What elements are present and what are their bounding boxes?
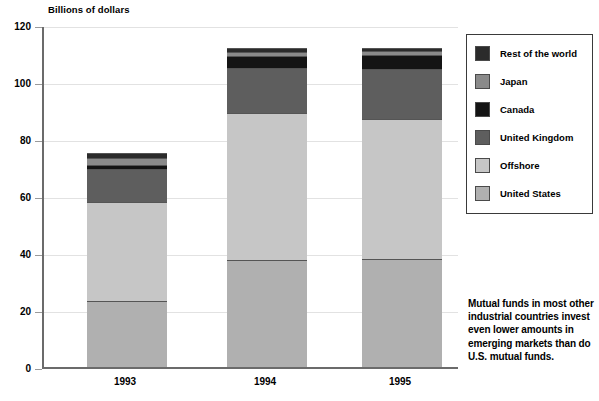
legend-item-label: Offshore (500, 161, 540, 171)
legend-item-offshore[interactable]: Offshore (475, 157, 540, 174)
y-axis-title: Billions of dollars (48, 4, 130, 15)
y-axis-tick-label: 20 (0, 306, 31, 317)
bar-1994 (227, 48, 307, 367)
bar-segment-1995-offshore (362, 119, 442, 259)
bar-segment-1993-rest-of-the-world (87, 153, 167, 157)
y-axis-tick-mark (35, 369, 42, 370)
legend-item-label: United States (500, 189, 561, 199)
bar-segment-1994-rest-of-the-world (227, 48, 307, 52)
x-axis-label-1993: 1993 (80, 376, 170, 387)
legend-swatch-icon (475, 130, 490, 145)
bar-segment-1993-japan (87, 158, 167, 165)
bar-segment-1995-united-states (362, 259, 442, 367)
y-axis-tick-mark (35, 255, 42, 256)
legend-item-label: Rest of the world (500, 49, 577, 59)
bar-segment-1994-united-kingdom (227, 68, 307, 114)
bar-segment-1995-canada (362, 55, 442, 69)
bar-segment-1995-united-kingdom (362, 69, 442, 119)
legend-swatch-icon (475, 102, 490, 117)
legend: Rest of the worldJapanCanadaUnited Kingd… (466, 34, 593, 214)
bar-segment-1995-rest-of-the-world (362, 48, 442, 51)
bar-segment-1994-offshore (227, 113, 307, 260)
gridline (44, 27, 458, 28)
bar-segment-1993-offshore (87, 202, 167, 302)
y-axis-tick-label: 80 (0, 135, 31, 146)
legend-swatch-icon (475, 186, 490, 201)
legend-item-label: Japan (500, 77, 527, 87)
y-axis-tick-label: 100 (0, 78, 31, 89)
legend-item-canada[interactable]: Canada (475, 101, 534, 118)
y-axis-tick-mark (35, 198, 42, 199)
y-axis-tick-mark (35, 84, 42, 85)
bar-segment-1993-canada (87, 165, 167, 169)
x-axis-label-1994: 1994 (220, 376, 310, 387)
legend-item-japan[interactable]: Japan (475, 73, 527, 90)
legend-item-united-kingdom[interactable]: United Kingdom (475, 129, 573, 146)
y-axis-tick-label: 120 (0, 21, 31, 32)
chart-figure: Billions of dollars 020406080100120 1993… (0, 0, 599, 401)
plot-area (42, 27, 458, 369)
legend-item-label: United Kingdom (500, 133, 573, 143)
bar-segment-1994-canada (227, 56, 307, 67)
y-axis-tick-label: 40 (0, 249, 31, 260)
bar-1993 (87, 153, 167, 367)
legend-item-rest-of-world[interactable]: Rest of the world (475, 45, 577, 62)
annotation-text: Mutual funds in most other industrial co… (468, 297, 594, 363)
legend-swatch-icon (475, 46, 490, 61)
bar-segment-1994-japan (227, 52, 307, 56)
legend-swatch-icon (475, 158, 490, 173)
bar-1995 (362, 48, 442, 367)
legend-swatch-icon (475, 74, 490, 89)
y-axis-tick-mark (35, 141, 42, 142)
y-axis-tick-mark (35, 312, 42, 313)
bar-segment-1993-united-kingdom (87, 169, 167, 202)
bar-segment-1994-united-states (227, 260, 307, 367)
legend-item-label: Canada (500, 105, 534, 115)
bar-segment-1995-japan (362, 51, 442, 55)
x-axis-label-1995: 1995 (355, 376, 445, 387)
y-axis-tick-mark (35, 27, 42, 28)
y-axis-tick-label: 0 (0, 363, 31, 374)
y-axis-tick-label: 60 (0, 192, 31, 203)
bar-segment-1993-united-states (87, 301, 167, 367)
legend-item-united-states[interactable]: United States (475, 185, 561, 202)
